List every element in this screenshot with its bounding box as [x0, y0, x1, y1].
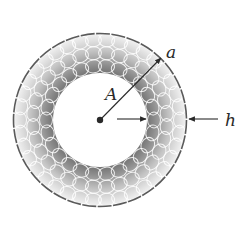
label-A: A — [103, 84, 117, 104]
annulus-diagram: a A h — [0, 0, 252, 231]
label-a: a — [166, 42, 176, 62]
label-h: h — [225, 110, 236, 130]
